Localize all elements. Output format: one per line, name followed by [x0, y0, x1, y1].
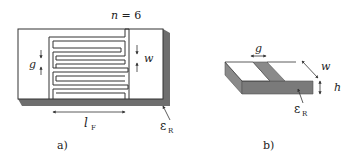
permittivity-subscript-b: R — [302, 110, 308, 118]
permittivity-label-a: ε — [160, 119, 166, 133]
height-label-b: h — [334, 81, 341, 94]
panel-b-cross-section: g w h ε R b) — [225, 42, 341, 152]
permittivity-label-b: ε — [294, 102, 300, 116]
caption-a: a) — [57, 139, 68, 152]
gap-label-b: g — [255, 42, 262, 55]
gap-label-a: g — [29, 58, 36, 71]
finger-length-subscript: F — [91, 124, 96, 132]
width-label-a: w — [144, 52, 154, 65]
permittivity-subscript-a: R — [168, 127, 174, 135]
caption-b: b) — [263, 139, 274, 152]
finger-length-label: l — [84, 116, 88, 130]
permittivity-pointer-a — [163, 106, 170, 120]
width-label-b: w — [321, 60, 331, 73]
diagram-canvas: g w n = 6 l F ε R a) g w — [0, 0, 357, 158]
slab-front-face — [242, 81, 313, 94]
width-arrow-b — [302, 61, 318, 78]
finger-count-label: n = 6 — [111, 9, 141, 22]
panel-a-interdigital-capacitor: g w n = 6 l F ε R a) — [18, 9, 174, 152]
